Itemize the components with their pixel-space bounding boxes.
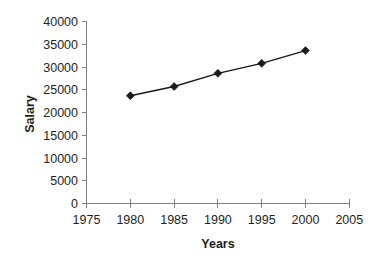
y-tick-label-40000: 40000 xyxy=(43,15,78,29)
x-axis-title: Years xyxy=(201,237,234,251)
series-markers-salary xyxy=(126,47,309,100)
y-tick-label-15000: 15000 xyxy=(43,129,78,143)
x-tick-label-1980: 1980 xyxy=(116,213,144,227)
x-tick-label-1975: 1975 xyxy=(73,213,101,227)
x-tick-label-1995: 1995 xyxy=(248,213,276,227)
chart-canvas: 40000 35000 30000 25000 20000 15000 1000… xyxy=(0,0,379,263)
data-point-marker xyxy=(126,92,134,100)
y-tick-label-10000: 10000 xyxy=(43,152,78,166)
x-tick-label-2005: 2005 xyxy=(335,213,363,227)
x-tick-label-1985: 1985 xyxy=(160,213,188,227)
x-tick-label-2000: 2000 xyxy=(292,213,320,227)
y-tick-label-20000: 20000 xyxy=(43,106,78,120)
salary-vs-years-line-chart: 40000 35000 30000 25000 20000 15000 1000… xyxy=(0,0,379,263)
data-point-marker xyxy=(214,69,222,77)
y-axis-title: Salary xyxy=(23,95,37,133)
y-tick-label-25000: 25000 xyxy=(43,83,78,97)
y-tick-label-30000: 30000 xyxy=(43,61,78,75)
data-point-marker xyxy=(258,59,266,67)
data-point-marker xyxy=(302,47,310,55)
data-point-marker xyxy=(170,83,178,91)
y-tick-label-5000: 5000 xyxy=(50,174,78,188)
y-tick-label-0: 0 xyxy=(71,197,78,211)
x-tick-label-1990: 1990 xyxy=(204,213,232,227)
y-tick-label-35000: 35000 xyxy=(43,38,78,52)
data-series-salary xyxy=(126,47,309,100)
